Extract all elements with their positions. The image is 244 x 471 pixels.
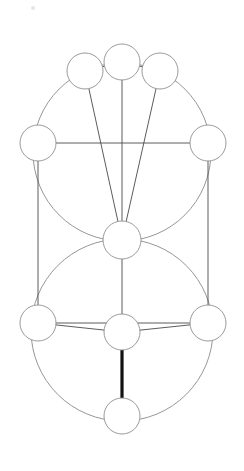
node-mid-left[interactable] (20, 125, 56, 161)
node-low-center[interactable] (104, 314, 140, 350)
node-top-right[interactable] (142, 53, 178, 89)
node-top-center[interactable] (104, 44, 140, 80)
node-center[interactable] (103, 221, 141, 259)
node-mid-right[interactable] (190, 125, 226, 161)
diagram-canvas (0, 0, 244, 471)
node-bottom[interactable] (104, 398, 140, 434)
edge-low-center-to-low-right (139, 325, 190, 330)
node-low-left[interactable] (20, 305, 56, 341)
stray-speck (31, 6, 35, 10)
edge-top-right-to-center (126, 88, 156, 222)
node-top-left[interactable] (67, 53, 103, 89)
node-low-right[interactable] (190, 305, 226, 341)
tree-of-life-diagram (0, 0, 244, 471)
edge-low-left-to-low-center (55, 325, 104, 330)
edge-top-left-to-center (89, 88, 118, 222)
